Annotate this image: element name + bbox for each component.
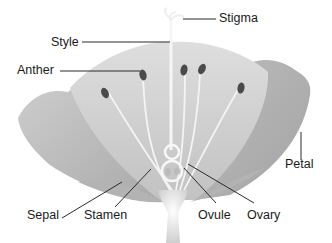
- label-stigma: Stigma: [219, 12, 258, 25]
- label-sepal: Sepal: [27, 209, 59, 222]
- stigma: [165, 8, 184, 20]
- label-ovule: Ovule: [198, 209, 231, 222]
- label-style: Style: [51, 36, 79, 49]
- label-petal: Petal: [285, 158, 314, 171]
- label-stamen: Stamen: [84, 209, 127, 222]
- label-ovary: Ovary: [247, 209, 280, 222]
- receptacle: [158, 190, 188, 243]
- flower-diagram: [0, 0, 332, 243]
- label-anther: Anther: [17, 64, 54, 77]
